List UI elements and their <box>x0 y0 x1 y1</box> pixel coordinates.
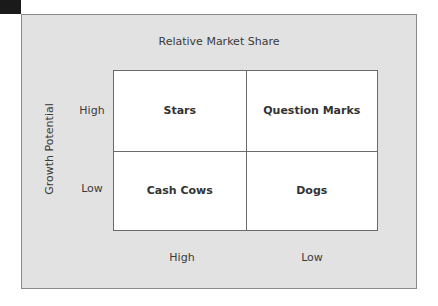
quadrant-dogs: Dogs <box>246 151 378 231</box>
quadrant-cash-cows: Cash Cows <box>114 151 246 231</box>
bcg-matrix-grid: Stars Question Marks Cash Cows Dogs <box>113 70 378 231</box>
y-axis-title: Growth Potential <box>43 103 56 195</box>
x-axis-label-low: Low <box>247 251 377 264</box>
y-axis-label-low: Low <box>72 182 112 195</box>
quadrant-stars: Stars <box>114 71 246 151</box>
quadrant-question-marks: Question Marks <box>246 71 378 151</box>
x-axis-label-high: High <box>117 251 247 264</box>
y-axis-label-high: High <box>72 104 112 117</box>
corner-block <box>0 0 21 14</box>
x-axis-title: Relative Market Share <box>0 35 438 48</box>
